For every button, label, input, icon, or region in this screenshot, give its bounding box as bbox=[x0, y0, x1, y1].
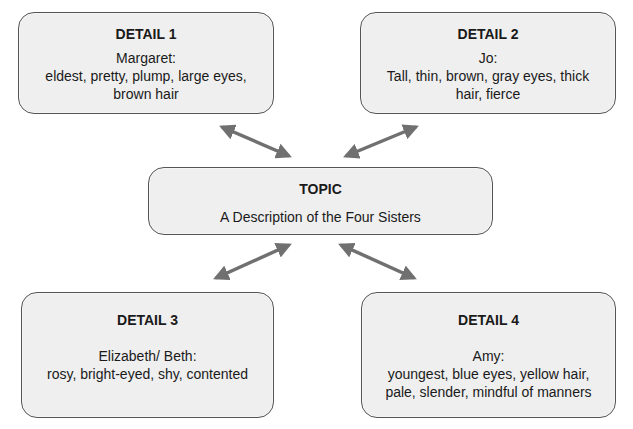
topic-text: A Description of the Four Sisters bbox=[149, 208, 492, 226]
detail-line: eldest, pretty, plump, large eyes, bbox=[19, 67, 273, 85]
topic-title: TOPIC bbox=[149, 180, 492, 198]
detail-title: DETAIL 2 bbox=[361, 25, 615, 43]
detail-line: Elizabeth/ Beth: bbox=[22, 347, 273, 365]
arrow-detail4-topic bbox=[341, 245, 414, 278]
detail-box-3: DETAIL 3 Elizabeth/ Beth: rosy, bright-e… bbox=[21, 292, 274, 418]
detail-line: Tall, thin, brown, gray eyes, thick bbox=[361, 67, 615, 85]
detail-line: hair, fierce bbox=[361, 85, 615, 103]
detail-title: DETAIL 1 bbox=[19, 25, 273, 43]
detail-line: pale, slender, mindful of manners bbox=[362, 383, 615, 401]
arrow-detail3-topic bbox=[216, 245, 289, 278]
detail-box-4: DETAIL 4 Amy: youngest, blue eyes, yello… bbox=[361, 292, 616, 418]
detail-title: DETAIL 3 bbox=[22, 311, 273, 329]
arrow-detail2-topic bbox=[346, 127, 416, 156]
detail-line: brown hair bbox=[19, 85, 273, 103]
detail-line: Jo: bbox=[361, 49, 615, 67]
detail-line: rosy, bright-eyed, shy, contented bbox=[22, 365, 273, 383]
detail-title: DETAIL 4 bbox=[362, 311, 615, 329]
detail-box-1: DETAIL 1 Margaret: eldest, pretty, plump… bbox=[18, 12, 274, 114]
topic-box: TOPIC A Description of the Four Sisters bbox=[148, 167, 493, 235]
detail-line: youngest, blue eyes, yellow hair, bbox=[362, 365, 615, 383]
detail-line: Margaret: bbox=[19, 49, 273, 67]
detail-line: Amy: bbox=[362, 347, 615, 365]
arrow-detail1-topic bbox=[222, 127, 289, 156]
detail-box-2: DETAIL 2 Jo: Tall, thin, brown, gray eye… bbox=[360, 12, 616, 114]
